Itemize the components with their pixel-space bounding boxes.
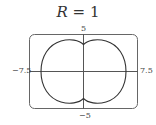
y-max-label: 5 bbox=[81, 25, 86, 33]
y-min-label: −5 bbox=[79, 112, 91, 120]
x-max-label: 7.5 bbox=[140, 67, 153, 75]
plot-area bbox=[0, 0, 156, 125]
x-min-label: −7.5 bbox=[12, 67, 31, 75]
